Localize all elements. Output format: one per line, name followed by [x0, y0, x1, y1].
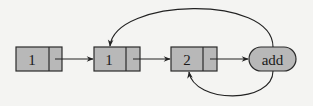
node-2-value: 1: [105, 52, 113, 68]
node-3-value: 2: [183, 52, 191, 68]
node-1-value: 1: [28, 52, 36, 68]
arc-add-to-node3: [189, 71, 273, 96]
linked-list-diagram: 1 1 2 add: [0, 0, 313, 106]
add-label: add: [262, 52, 284, 68]
add-operation-node: add: [249, 47, 296, 71]
arc-add-to-node2: [110, 9, 273, 47]
